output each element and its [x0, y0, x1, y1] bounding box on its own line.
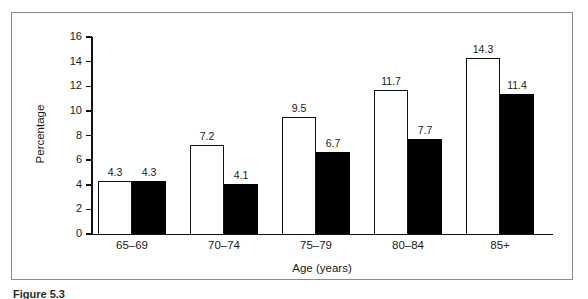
y-axis-title: Percentage: [34, 84, 46, 184]
x-category-label: 80–84: [362, 239, 454, 252]
bar-open[interactable]: [190, 145, 224, 234]
y-tick-label-text: 10: [60, 105, 82, 116]
x-category-label: 85+: [454, 239, 546, 252]
bar-value-label: 7.7: [405, 125, 445, 136]
y-tick-mark: [86, 233, 92, 235]
x-category-label: 75–79: [270, 239, 362, 252]
y-tick-label: 10: [58, 105, 82, 116]
y-tick-label-text: 8: [60, 130, 82, 141]
x-category-label: 70–74: [178, 239, 270, 252]
y-tick-mark: [86, 159, 92, 161]
bar-value-label: 9.5: [279, 103, 319, 114]
bar-value-label: 7.2: [187, 131, 227, 142]
bar-open[interactable]: [466, 58, 500, 234]
bar-chart-plot: 0246810121416 Percentage Age (years) 4.3…: [0, 0, 588, 299]
bar-value-label: 11.4: [497, 80, 537, 91]
bar-group: 11.77.780–84: [374, 0, 442, 299]
y-tick-mark: [86, 135, 92, 137]
bar-filled[interactable]: [408, 139, 442, 234]
bar-group: 9.56.775–79: [282, 0, 350, 299]
y-tick-label: 16: [58, 31, 82, 42]
bar-value-label: 11.7: [371, 76, 411, 87]
bar-group: 7.24.170–74: [190, 0, 258, 299]
figure-root: 0246810121416 Percentage Age (years) 4.3…: [0, 0, 588, 299]
figure-caption: Figure 5.3: [13, 288, 65, 299]
bar-value-label: 4.3: [129, 167, 169, 178]
bar-filled[interactable]: [132, 181, 166, 234]
y-tick-label: 0: [58, 228, 82, 239]
y-tick-label: 6: [58, 154, 82, 165]
y-tick-label: 12: [58, 80, 82, 91]
y-tick-label-text: 4: [60, 179, 82, 190]
y-tick-label-text: 12: [60, 80, 82, 91]
y-tick-label: 4: [58, 179, 82, 190]
y-tick-label: 14: [58, 56, 82, 67]
bar-value-label: 6.7: [313, 138, 353, 149]
y-tick-mark: [86, 36, 92, 38]
bar-value-label: 4.1: [221, 170, 261, 181]
y-tick-label-text: 16: [60, 31, 82, 42]
y-tick-mark: [86, 61, 92, 63]
bar-group: 14.311.485+: [466, 0, 534, 299]
bar-value-label: 14.3: [463, 44, 503, 55]
y-tick-label: 2: [58, 203, 82, 214]
y-tick-label-text: 6: [60, 154, 82, 165]
bar-filled[interactable]: [316, 152, 350, 234]
bar-open[interactable]: [98, 181, 132, 234]
y-tick-label: 8: [58, 130, 82, 141]
y-tick-mark: [86, 110, 92, 112]
bar-open[interactable]: [374, 90, 408, 234]
x-category-label: 65–69: [86, 239, 178, 252]
bar-group: 4.34.365–69: [98, 0, 166, 299]
y-tick-label-text: 2: [60, 203, 82, 214]
y-tick-mark: [86, 209, 92, 211]
bar-filled[interactable]: [500, 94, 534, 234]
bar-filled[interactable]: [224, 184, 258, 234]
y-tick-mark: [86, 86, 92, 88]
bar-open[interactable]: [282, 117, 316, 234]
y-tick-label-text: 0: [60, 228, 82, 239]
y-tick-mark: [86, 184, 92, 186]
y-tick-label-text: 14: [60, 56, 82, 67]
